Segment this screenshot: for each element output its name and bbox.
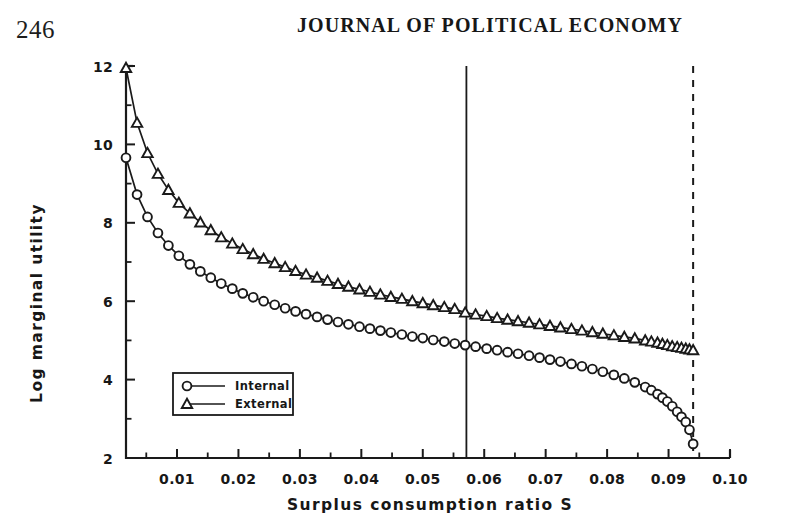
tick-labels: 246810120.010.020.030.040.050.060.070.08… <box>93 59 748 488</box>
data-point-circle <box>685 425 694 434</box>
data-point-triangle <box>227 238 237 247</box>
data-point-circle <box>302 310 311 319</box>
data-point-triangle <box>397 294 407 303</box>
journal-running-head: JOURNAL OF POLITICAL ECONOMY <box>0 14 790 37</box>
data-point-circle <box>154 229 163 238</box>
data-point-circle <box>567 360 576 369</box>
data-point-circle <box>228 284 237 293</box>
data-point-circle <box>323 315 332 324</box>
data-point-circle <box>546 355 555 364</box>
y-tick-label: 12 <box>93 59 113 75</box>
data-point-triangle <box>598 329 608 338</box>
data-point-circle <box>450 339 459 348</box>
y-tick-label: 4 <box>103 372 113 388</box>
y-tick-label: 10 <box>93 137 113 153</box>
data-point-triangle <box>206 225 216 234</box>
legend-label-internal: Internal <box>235 379 290 393</box>
data-point-triangle <box>407 296 417 305</box>
data-point-circle <box>174 251 183 260</box>
data-point-circle <box>206 273 215 282</box>
data-point-circle <box>249 293 258 302</box>
x-tick-label: 0.06 <box>466 471 502 487</box>
data-point-triangle <box>481 311 491 320</box>
data-point-triangle <box>428 300 438 309</box>
data-point-circle <box>217 279 226 288</box>
data-point-circle <box>291 307 300 316</box>
x-tick-label: 0.04 <box>343 471 379 487</box>
x-tick-label: 0.07 <box>528 471 564 487</box>
data-point-circle <box>598 367 607 376</box>
data-point-triangle <box>386 292 396 301</box>
data-point-triangle <box>545 321 555 330</box>
data-point-circle <box>366 324 375 333</box>
data-point-triangle <box>280 262 290 271</box>
data-point-triangle <box>354 284 364 293</box>
data-point-triangle <box>343 281 353 290</box>
data-point-triangle <box>301 269 311 278</box>
data-point-circle <box>196 267 205 276</box>
data-point-circle <box>440 337 449 346</box>
legend-label-external: External <box>235 397 292 411</box>
data-point-triangle <box>534 319 544 328</box>
data-point-circle <box>386 328 395 337</box>
data-point-triangle <box>587 327 597 336</box>
data-point-circle <box>183 382 192 391</box>
data-point-triangle <box>492 313 502 322</box>
data-point-triangle <box>142 148 152 157</box>
journal-page: 246 JOURNAL OF POLITICAL ECONOMY 2468101… <box>0 0 790 531</box>
data-point-circle <box>376 326 385 335</box>
data-point-triangle <box>439 302 449 311</box>
data-point-circle <box>408 332 417 341</box>
x-tick-label: 0.05 <box>405 471 441 487</box>
data-point-triangle <box>513 316 523 325</box>
data-point-triangle <box>577 325 587 334</box>
data-point-circle <box>186 260 195 269</box>
data-point-triangle <box>238 244 248 253</box>
data-point-circle <box>689 439 698 448</box>
data-point-circle <box>535 353 544 362</box>
data-point-circle <box>334 318 343 327</box>
y-axis-title: Log marginal utility <box>28 203 46 403</box>
data-point-circle <box>143 213 152 222</box>
plot-canvas: 246810120.010.020.030.040.050.060.070.08… <box>0 40 790 531</box>
data-point-triangle <box>609 330 619 339</box>
y-tick-label: 8 <box>103 215 113 231</box>
data-point-triangle <box>418 298 428 307</box>
data-point-circle <box>578 362 587 371</box>
data-point-circle <box>514 349 523 358</box>
data-point-triangle <box>470 309 480 318</box>
data-point-triangle <box>248 249 258 258</box>
data-point-circle <box>270 300 279 309</box>
data-point-triangle <box>216 232 226 241</box>
series-external <box>121 63 699 354</box>
x-tick-label: 0.09 <box>651 471 687 487</box>
legend: InternalExternal <box>173 373 293 415</box>
data-point-circle <box>133 190 142 199</box>
data-point-triangle <box>312 272 322 281</box>
data-point-triangle <box>375 289 385 298</box>
y-tick-label: 6 <box>103 294 113 310</box>
data-point-triangle <box>524 318 534 327</box>
data-point-circle <box>620 374 629 383</box>
x-tick-label: 0.03 <box>282 471 318 487</box>
x-tick-label: 0.10 <box>712 471 748 487</box>
data-point-circle <box>556 357 565 366</box>
data-point-circle <box>471 342 480 351</box>
x-tick-label: 0.08 <box>589 471 625 487</box>
data-point-circle <box>588 365 597 374</box>
x-axis-title: Surplus consumption ratio S <box>287 496 573 514</box>
figure-log-marginal-utility: 246810120.010.020.030.040.050.060.070.08… <box>0 40 790 531</box>
data-point-triangle <box>333 279 343 288</box>
data-point-triangle <box>163 185 173 194</box>
data-point-circle <box>122 153 131 162</box>
data-point-triangle <box>132 118 142 127</box>
data-point-circle <box>503 348 512 357</box>
data-point-circle <box>461 341 470 350</box>
data-point-triangle <box>555 322 565 331</box>
data-point-circle <box>164 241 173 250</box>
data-point-circle <box>281 304 290 313</box>
data-point-triangle <box>153 169 163 178</box>
data-point-triangle <box>630 333 640 342</box>
data-point-circle <box>429 336 438 345</box>
data-point-circle <box>313 312 322 321</box>
